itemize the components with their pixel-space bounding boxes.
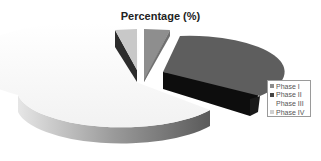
- legend-label: Phase II: [276, 91, 302, 98]
- legend-item-phase-i: Phase I: [270, 82, 308, 91]
- legend-swatch-icon: [270, 84, 274, 88]
- legend-item-phase-iv: Phase IV: [270, 108, 308, 117]
- legend-swatch-icon: [270, 93, 274, 97]
- legend-item-phase-ii: Phase II: [270, 91, 308, 100]
- legend-item-phase-iii: Phase III: [270, 99, 308, 108]
- legend-label: Phase III: [276, 100, 304, 107]
- legend-label: Phase IV: [276, 109, 304, 116]
- legend-swatch-icon: [270, 110, 274, 114]
- chart-legend: Phase I Phase II Phase III Phase IV: [267, 80, 311, 117]
- legend-swatch-icon: [270, 101, 274, 105]
- legend-label: Phase I: [276, 83, 300, 90]
